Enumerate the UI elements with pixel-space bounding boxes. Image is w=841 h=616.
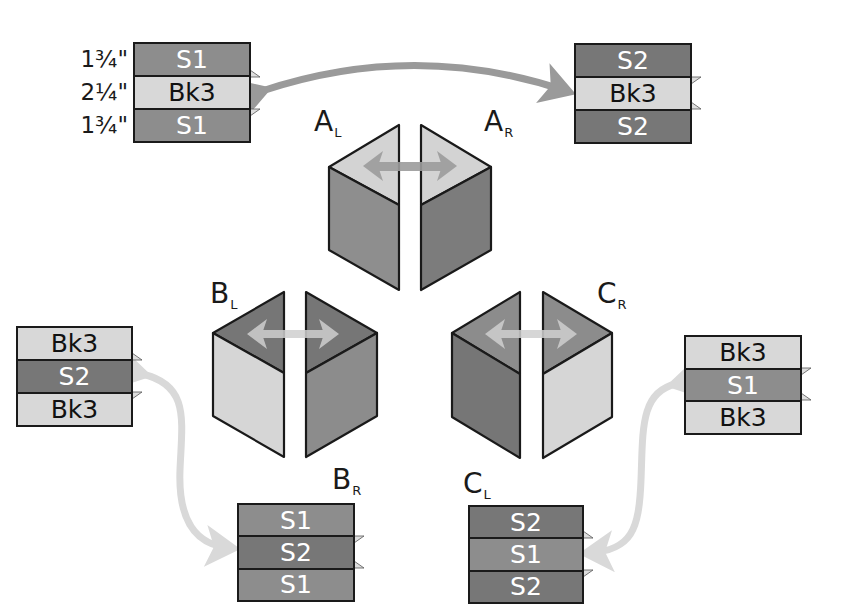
strip-bk3: Bk3 bbox=[576, 76, 690, 109]
label-subscript: R bbox=[352, 483, 361, 498]
label-subscript: L bbox=[334, 125, 341, 140]
label-letter: B bbox=[332, 463, 351, 496]
label-letter: C bbox=[597, 277, 617, 310]
label-b-right: BR bbox=[332, 466, 361, 494]
cube-c bbox=[452, 292, 612, 458]
strip-s1: S1 bbox=[686, 368, 800, 401]
strip-s1: S1 bbox=[135, 44, 249, 75]
strip-bk3: Bk3 bbox=[18, 328, 131, 359]
strip-s2: S2 bbox=[576, 109, 690, 142]
cube-a bbox=[329, 125, 491, 290]
label-c-left: CL bbox=[463, 470, 491, 498]
label-subscript: L bbox=[484, 487, 491, 502]
label-a-left: AL bbox=[314, 108, 341, 136]
label-subscript: R bbox=[618, 297, 627, 312]
label-c-right: CR bbox=[597, 280, 627, 308]
strip-s1: S1 bbox=[470, 537, 582, 569]
strip-s2: S2 bbox=[239, 535, 353, 567]
strip-s1: S1 bbox=[239, 568, 353, 600]
cube-b bbox=[213, 292, 377, 457]
strip-bk3: Bk3 bbox=[686, 400, 800, 433]
cube-a-swap-arrow-icon bbox=[363, 151, 457, 181]
strip-bk3: Bk3 bbox=[686, 337, 800, 368]
strip-set-cube-diagram: 1¾" 2¼" 1¾" S1 Bk3 S1 S2 Bk3 S2 Bk3 S2 B… bbox=[0, 0, 841, 616]
label-letter: A bbox=[484, 105, 503, 138]
label-subscript: R bbox=[504, 125, 513, 140]
strip-bk3: Bk3 bbox=[135, 75, 249, 108]
label-a-right: AR bbox=[484, 108, 513, 136]
strip-s1: S1 bbox=[135, 108, 249, 141]
swap-arrow-a bbox=[262, 66, 566, 92]
strip-set-a-left: S1 Bk3 S1 bbox=[133, 42, 251, 143]
label-letter: B bbox=[210, 277, 229, 310]
strip-s2: S2 bbox=[576, 45, 690, 76]
strip-s1: S1 bbox=[239, 505, 353, 535]
strip-set-c-right: Bk3 S1 Bk3 bbox=[684, 335, 802, 435]
strip-set-c-left: S2 S1 S2 bbox=[468, 505, 584, 604]
label-letter: A bbox=[314, 105, 333, 138]
dimension-label-bottom: 1¾" bbox=[58, 114, 128, 137]
label-letter: C bbox=[463, 467, 483, 500]
strip-s2: S2 bbox=[470, 570, 582, 602]
label-b-left: BL bbox=[210, 280, 237, 308]
dimension-label-top: 1¾" bbox=[58, 48, 128, 71]
dimension-label-middle: 2¼" bbox=[58, 81, 128, 104]
strip-set-b-right: S1 S2 S1 bbox=[237, 503, 355, 602]
strip-bk3: Bk3 bbox=[18, 392, 131, 425]
strip-s2: S2 bbox=[18, 359, 131, 392]
label-subscript: L bbox=[230, 297, 237, 312]
strip-set-b-left: Bk3 S2 Bk3 bbox=[16, 326, 133, 427]
strip-s2: S2 bbox=[470, 507, 582, 537]
strip-set-a-right: S2 Bk3 S2 bbox=[574, 43, 692, 144]
